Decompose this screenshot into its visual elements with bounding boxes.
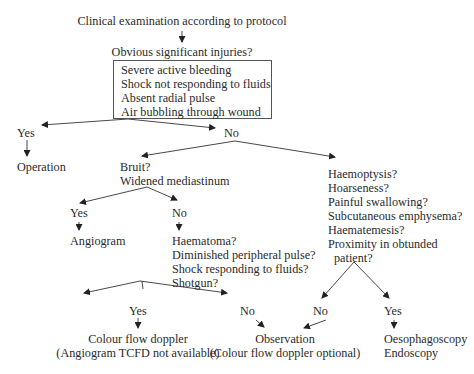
aero-no-label: No xyxy=(313,304,328,318)
operation-outcome: Operation xyxy=(17,160,66,174)
aero-question: Proximity in obtunded xyxy=(328,237,438,251)
colour-flow-doppler-note: (Angiogram TCFD not available) xyxy=(56,346,219,360)
start-node: Clinical examination according to protoc… xyxy=(77,14,286,28)
q1-yes-label: Yes xyxy=(17,126,35,140)
vascular-subquestion: Haematoma? xyxy=(172,234,236,248)
aero-yes-label: Yes xyxy=(384,304,402,318)
sub-no-label: No xyxy=(240,304,255,318)
criteria-item: Shock not responding to fluids xyxy=(121,77,271,91)
criteria-item: Severe active bleeding xyxy=(121,63,231,77)
vascular-yes-label: Yes xyxy=(70,206,88,220)
aero-question: Hoarseness? xyxy=(328,181,389,195)
oesophagoscopy-outcome: Oesophagoscopy xyxy=(384,332,467,346)
vascular-subquestion: Shock responding to fluids? xyxy=(172,262,308,276)
aero-question: Subcutaneous emphysema? xyxy=(328,209,462,223)
vascular-subquestion: Shotgun? xyxy=(172,276,218,290)
bruit-question: Bruit? xyxy=(120,160,150,174)
aero-question: Haemoptysis? xyxy=(328,167,397,181)
vascular-no-label: No xyxy=(172,206,187,220)
widened-mediastinum-question: Widened mediastinum xyxy=(120,174,230,188)
q1-no-label: No xyxy=(224,126,239,140)
aero-question: Painful swallowing? xyxy=(328,195,428,209)
criteria-item: Absent radial pulse xyxy=(121,91,215,105)
observation-outcome: Observation xyxy=(255,332,315,346)
angiogram-outcome: Angiogram xyxy=(70,234,126,248)
obvious-injuries-question: Obvious significant injuries? xyxy=(112,45,253,59)
aero-question: Haematemesis? xyxy=(328,223,404,237)
sub-yes-label: Yes xyxy=(129,304,147,318)
criteria-item: Air bubbling through wound xyxy=(121,105,261,119)
aero-question: patient? xyxy=(334,251,373,265)
endoscopy-outcome: Endoscopy xyxy=(384,346,438,360)
vascular-subquestion: Diminished peripheral pulse? xyxy=(172,248,316,262)
colour-flow-doppler-outcome: Colour flow doppler xyxy=(88,332,188,346)
observation-note: (Colour flow doppler optional) xyxy=(210,346,361,360)
